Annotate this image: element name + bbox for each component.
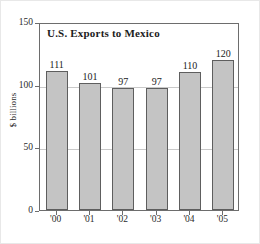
gridline bbox=[40, 87, 238, 88]
gridline bbox=[40, 149, 238, 150]
bar-value-label: 97 bbox=[152, 77, 162, 87]
x-tick-label: '05 bbox=[217, 215, 228, 225]
y-tick-mark bbox=[35, 148, 39, 149]
x-tick-label: '04 bbox=[183, 215, 194, 225]
x-tick-mark bbox=[56, 211, 57, 215]
bar: 120 bbox=[212, 60, 234, 210]
chart-title: U.S. Exports to Mexico bbox=[47, 27, 160, 39]
y-tick-mark bbox=[35, 23, 39, 24]
bar: 101 bbox=[79, 83, 101, 210]
x-tick-label: '00 bbox=[50, 215, 61, 225]
bar-value-label: 110 bbox=[183, 61, 198, 71]
bar-value-label: 97 bbox=[118, 77, 128, 87]
x-tick-label: '03 bbox=[150, 215, 161, 225]
y-tick-mark bbox=[35, 86, 39, 87]
y-tick-label: 0 bbox=[7, 206, 33, 216]
bar-chart-figure: $ billions 050100150 U.S. Exports to Mex… bbox=[0, 0, 260, 244]
x-tick-mark bbox=[222, 211, 223, 215]
y-tick-mark bbox=[35, 211, 39, 212]
x-tick-mark bbox=[189, 211, 190, 215]
bar-value-label: 111 bbox=[50, 60, 64, 70]
y-axis-tick-labels: 050100150 bbox=[7, 1, 33, 244]
x-tick-mark bbox=[122, 211, 123, 215]
x-tick-label: '02 bbox=[117, 215, 128, 225]
x-tick-mark bbox=[156, 211, 157, 215]
bar: 97 bbox=[146, 88, 168, 210]
y-tick-label: 100 bbox=[7, 81, 33, 91]
bar-value-label: 120 bbox=[216, 49, 231, 59]
bar: 111 bbox=[46, 71, 68, 210]
plot-area: U.S. Exports to Mexico 1111019797110120 bbox=[39, 23, 239, 211]
bar-value-label: 101 bbox=[83, 72, 98, 82]
y-tick-label: 50 bbox=[7, 144, 33, 154]
bar: 110 bbox=[179, 72, 201, 210]
bar: 97 bbox=[112, 88, 134, 210]
y-tick-label: 150 bbox=[7, 18, 33, 28]
x-tick-label: '01 bbox=[83, 215, 94, 225]
x-tick-mark bbox=[89, 211, 90, 215]
